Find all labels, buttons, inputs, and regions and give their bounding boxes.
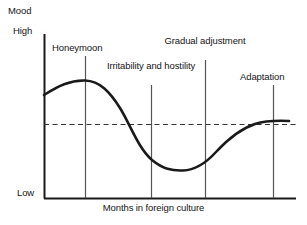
stage-label-gradual: Gradual adjustment xyxy=(157,36,253,47)
stage-label-adaptation: Adaptation xyxy=(240,72,284,83)
culture-shock-chart: Mood High Low Months in foreign culture … xyxy=(0,0,307,225)
stage-label-honeymoon: Honeymoon xyxy=(52,43,102,54)
x-axis-title: Months in foreign culture xyxy=(0,203,307,214)
y-axis-tick-high: High xyxy=(13,26,32,37)
y-axis-title: Mood xyxy=(8,6,31,17)
chart-plot-area xyxy=(0,0,307,225)
stage-label-irritability: Irritability and hostility xyxy=(103,61,199,72)
y-axis-tick-low: Low xyxy=(17,188,34,199)
mood-curve-line xyxy=(44,80,289,170)
